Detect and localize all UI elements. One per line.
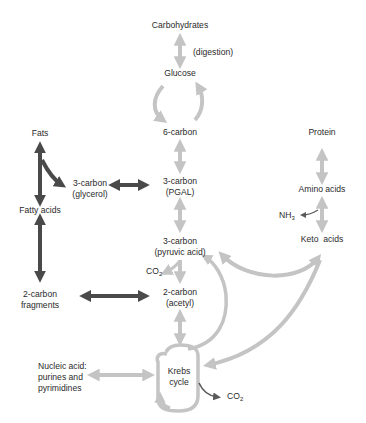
node-carbohydrates: Carbohydrates	[152, 20, 208, 31]
glycerol-line1: 3-carbon	[72, 178, 107, 189]
node-six-carbon: 6-carbon	[163, 127, 197, 138]
pgal-line2: (PGAL)	[163, 187, 197, 198]
node-fats: Fats	[32, 128, 49, 139]
node-fatty-acids: Fatty acids	[19, 205, 61, 216]
label-co2-krebs: CO2	[227, 391, 243, 405]
node-glycerol: 3-carbon (glycerol)	[72, 178, 107, 200]
node-keto-acids: Keto acids	[301, 234, 344, 245]
keto-acids-text: Keto acids	[301, 234, 344, 244]
krebs-line1: Krebs	[168, 366, 190, 377]
glycerol-line2: (glycerol)	[72, 189, 107, 200]
nh3-subscript: 3	[291, 215, 294, 221]
nucleic-line1: Nucleic acid:	[38, 361, 87, 372]
fats-glycerol-arrow	[42, 160, 62, 185]
label-digestion: (digestion)	[193, 47, 233, 58]
pyruvic-line1: 3-carbon	[154, 236, 205, 247]
nucleic-line3: pyrimidines	[38, 383, 87, 394]
co2-subscript: 2	[159, 271, 162, 277]
node-pgal: 3-carbon (PGAL)	[163, 176, 197, 198]
glucose-cycle-arrows	[155, 86, 202, 120]
label-co2-pyruvate: CO2	[146, 266, 162, 280]
pyruvic-keto-arrow	[222, 255, 318, 276]
node-protein: Protein	[308, 127, 335, 138]
pgal-line1: 3-carbon	[163, 176, 197, 187]
node-krebs-cycle: Krebs cycle	[168, 366, 190, 388]
krebs-co2-arrow	[199, 383, 217, 397]
nucleic-line2: purines and	[38, 372, 87, 383]
node-two-carbon-fragments: 2-carbon fragments	[21, 289, 59, 311]
co2-subscript: 2	[240, 396, 243, 402]
label-nh3: NH3	[279, 210, 295, 224]
node-pyruvic-acid: 3-carbon (pyruvic acid)	[154, 236, 205, 258]
co2-text: CO	[146, 266, 159, 276]
fragments-line2: fragments	[21, 300, 59, 311]
node-nucleic-acid: Nucleic acid: purines and pyrimidines	[38, 361, 87, 394]
amino-keto-arrow	[303, 201, 322, 228]
acetyl-line1: 2-carbon	[163, 287, 197, 298]
co2-text: CO	[227, 391, 240, 401]
pyruvic-line2: (pyruvic acid)	[154, 247, 205, 258]
node-amino-acids: Amino acids	[299, 184, 346, 195]
node-glucose: Glucose	[164, 68, 196, 79]
pyruvic-acetyl-arrow	[166, 260, 180, 279]
krebs-line2: cycle	[168, 377, 190, 388]
acetyl-line2: (acetyl)	[163, 298, 197, 309]
node-acetyl: 2-carbon (acetyl)	[163, 287, 197, 309]
nh3-text: NH	[279, 210, 291, 220]
fragments-line1: 2-carbon	[21, 289, 59, 300]
